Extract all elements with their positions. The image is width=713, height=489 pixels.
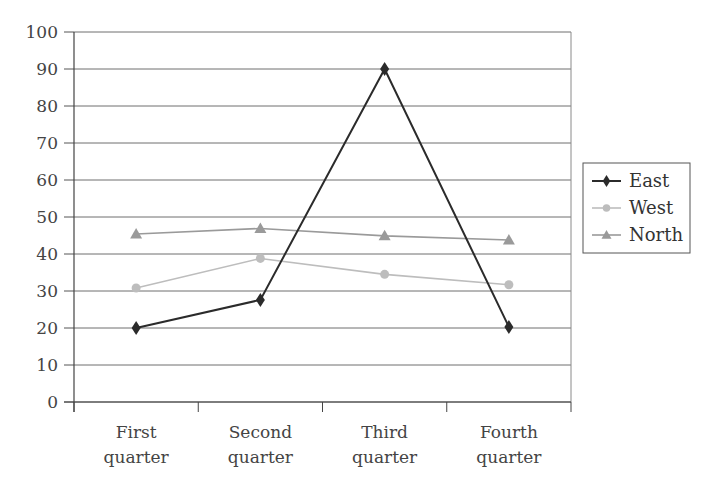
circle-marker [380,270,389,279]
circle-marker [504,280,513,289]
y-tick-label: 30 [36,281,58,301]
circle-marker [256,254,265,263]
line-chart: 0102030405060708090100 FirstquarterSecon… [0,0,713,489]
y-tick-label: 10 [36,355,58,375]
y-tick-label: 90 [36,59,58,79]
series-west [132,254,514,293]
series-line [136,69,509,328]
y-tick-label: 40 [36,244,58,264]
triangle-marker [254,222,266,233]
y-tick-label: 70 [36,133,58,153]
series-line [136,228,509,239]
series-east [132,62,514,335]
x-category-label: Fourthquarter [476,422,542,467]
y-tick-label: 80 [36,96,58,116]
x-category-label: Firstquarter [104,422,170,467]
y-tick-label: 100 [26,22,58,42]
y-tick-label: 60 [36,170,58,190]
legend-label: West [629,197,674,218]
legend-label: East [629,170,670,191]
gridlines [74,32,571,402]
legend-label: North [629,224,683,245]
y-tick-label: 50 [36,207,58,227]
y-axis-tick-labels: 0102030405060708090100 [26,22,58,412]
x-category-label: Secondquarter [228,422,294,467]
data-series [130,62,515,335]
series-line [136,258,509,288]
y-tick-label: 20 [36,318,58,338]
circle-marker [603,204,611,212]
y-tick-label: 0 [47,392,58,412]
x-category-label: Thirdquarter [352,422,418,467]
circle-marker [132,284,141,293]
x-axis-category-labels: FirstquarterSecondquarterThirdquarterFou… [104,422,543,467]
axes [64,32,571,412]
series-north [130,222,515,244]
legend: EastWestNorth [583,163,690,253]
diamond-marker [132,321,141,335]
